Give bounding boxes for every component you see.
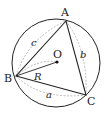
- vertex-label-c: C: [87, 95, 95, 108]
- side-label-a: a: [46, 89, 52, 100]
- center-label-o: O: [53, 48, 62, 61]
- triangle-abc: [16, 21, 86, 95]
- vertex-label-a: A: [60, 6, 70, 19]
- vertex-label-b: B: [4, 72, 12, 85]
- side-label-c: c: [31, 37, 37, 48]
- circumcircle-diagram: A B C O R a b c: [0, 0, 109, 116]
- radius-label: R: [33, 71, 42, 82]
- side-label-b: b: [80, 49, 86, 60]
